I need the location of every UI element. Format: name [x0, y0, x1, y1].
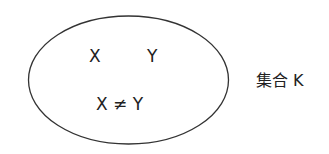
- condition-x-not-equal-y: X ≠ Y: [96, 96, 143, 113]
- element-x: X: [89, 48, 101, 65]
- set-k-ellipse: [29, 16, 229, 144]
- element-y: Y: [147, 48, 157, 65]
- set-name-label: 集合 K: [256, 73, 304, 89]
